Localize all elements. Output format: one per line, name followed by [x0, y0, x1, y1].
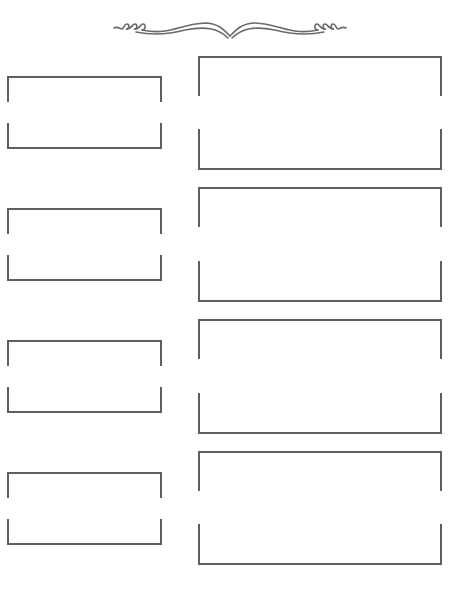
box-bottom-bracket [7, 387, 162, 413]
box-bottom-bracket [7, 255, 162, 281]
box-top-bracket [7, 472, 162, 498]
box-bottom-bracket [7, 123, 162, 149]
long-answer-box-3[interactable] [198, 319, 442, 434]
box-bottom-bracket [7, 519, 162, 545]
box-top-bracket [198, 319, 442, 359]
box-top-bracket [7, 340, 162, 366]
short-answer-box-2[interactable] [7, 208, 162, 281]
box-bottom-bracket [198, 393, 442, 434]
long-answer-box-1[interactable] [198, 56, 442, 170]
scroll-flourish-icon [110, 16, 350, 46]
box-top-bracket [198, 187, 442, 227]
short-answer-box-4[interactable] [7, 472, 162, 545]
short-answer-box-3[interactable] [7, 340, 162, 413]
box-top-bracket [7, 208, 162, 234]
box-top-bracket [7, 76, 162, 102]
long-answer-box-2[interactable] [198, 187, 442, 302]
box-top-bracket [198, 56, 442, 96]
box-top-bracket [198, 451, 442, 491]
box-bottom-bracket [198, 261, 442, 302]
box-bottom-bracket [198, 524, 442, 565]
short-answer-box-1[interactable] [7, 76, 162, 149]
box-bottom-bracket [198, 129, 442, 170]
long-answer-box-4[interactable] [198, 451, 442, 565]
